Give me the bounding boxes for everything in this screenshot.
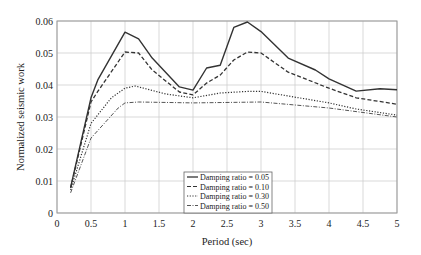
seismic-work-chart: 00.010.020.030.040.050.06 00.511.522.533… [0,0,421,255]
x-tick-label: 1 [123,218,128,229]
x-tick-label: 0.5 [85,218,98,229]
legend-label: Damping ratio = 0.50 [200,202,269,211]
legend-item-0.10: Damping ratio = 0.10 [187,183,269,192]
x-axis-label: Period (sec) [202,236,253,248]
y-axis-label: Normalized seismic work [15,62,26,171]
legend-label: Damping ratio = 0.05 [200,173,269,182]
x-tick-label: 4 [327,218,332,229]
legend: Damping ratio = 0.05 Damping ratio = 0.1… [184,172,272,213]
x-tick-label: 5 [395,218,400,229]
x-tick-label: 2 [191,218,196,229]
legend-label: Damping ratio = 0.10 [200,183,269,192]
x-tick-label: 3.5 [289,218,302,229]
series-line-solid [71,22,397,187]
y-tick-label: 0.02 [36,144,54,155]
y-tick-label: 0.04 [36,80,54,91]
data-series [71,22,397,193]
x-tick-label: 0 [55,218,60,229]
legend-item-0.50: Damping ratio = 0.50 [187,202,269,211]
y-tick-label: 0.03 [36,112,54,123]
y-tick-label: 0.05 [36,48,54,59]
y-axis-ticks: 00.010.020.030.040.050.06 [36,16,54,219]
series-line-dashed [71,52,397,188]
y-tick-label: 0 [48,208,53,219]
legend-item-0.05: Damping ratio = 0.05 [187,173,269,182]
x-tick-label: 1.5 [153,218,166,229]
y-tick-label: 0.01 [36,176,54,187]
y-tick-label: 0.06 [36,16,54,27]
x-axis-ticks: 00.511.522.533.544.55 [55,218,400,229]
x-tick-label: 3 [259,218,264,229]
legend-item-0.30: Damping ratio = 0.30 [187,192,269,201]
legend-label: Damping ratio = 0.30 [200,192,269,201]
x-tick-label: 2.5 [221,218,234,229]
x-tick-label: 4.5 [357,218,370,229]
